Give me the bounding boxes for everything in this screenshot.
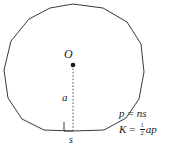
center-label-O: O <box>64 48 73 60</box>
center-point-dot <box>71 63 76 68</box>
side-label-s: s <box>69 135 73 145</box>
perimeter-lhs: p <box>119 107 125 119</box>
formula-perimeter: p = ns <box>119 105 174 121</box>
perimeter-equals: = <box>128 107 134 119</box>
right-angle-marker <box>64 122 73 131</box>
apothem-label-a: a <box>62 92 68 103</box>
fraction-denominator: 2 <box>140 129 145 137</box>
formula-area: K = 1 2 ap <box>119 121 174 137</box>
area-lhs: K <box>119 123 126 135</box>
fraction-numerator: 1 <box>140 122 145 129</box>
one-half-fraction: 1 2 <box>140 122 145 136</box>
area-rhs: ap <box>146 123 157 135</box>
formula-block: p = ns K = 1 2 ap <box>119 105 174 137</box>
area-equals: = <box>129 123 135 135</box>
perimeter-rhs: ns <box>137 107 147 119</box>
geometry-figure: O a s p = ns K = 1 2 ap <box>0 0 174 152</box>
